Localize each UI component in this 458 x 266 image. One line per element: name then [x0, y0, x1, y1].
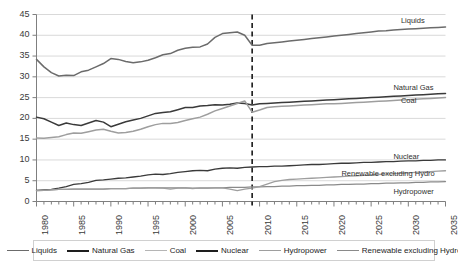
series-label-hydropower: Hydropower [393, 188, 433, 196]
legend-label: Nuclear [221, 246, 249, 255]
legend-label: Natural Gas [92, 246, 135, 255]
y-axis-label-10: 10 [10, 155, 30, 164]
y-axis-label-45: 45 [10, 10, 30, 19]
legend-label: Liquids [32, 246, 57, 255]
series-label-coal: Coal [401, 97, 416, 105]
x-axis-label-2035: 2035 [450, 214, 458, 234]
x-axis-label-2005: 2005 [226, 214, 235, 234]
x-axis-label-1990: 1990 [115, 214, 124, 234]
legend-label: Renewable excluding Hydro [362, 246, 458, 255]
chart-legend: LiquidsNatural GasCoalNuclearHydropowerR… [33, 240, 435, 261]
legend-item-nuclear[interactable]: Nuclear [196, 246, 249, 255]
y-axis-label-20: 20 [10, 113, 30, 122]
y-axis-label-35: 35 [10, 51, 30, 60]
legend-swatch-icon [67, 250, 89, 252]
chart-container: 051015202530354045 198019851990199520002… [0, 0, 458, 266]
series-label-renewable-excluding-hydro: Renewable excluding Hydro [341, 170, 434, 178]
series-line-natural-gas [37, 93, 446, 126]
legend-item-coal[interactable]: Coal [145, 246, 186, 255]
legend-swatch-icon [196, 250, 218, 252]
legend-item-liquids[interactable]: Liquids [7, 246, 57, 255]
legend-swatch-icon [259, 250, 281, 251]
x-axis-label-2025: 2025 [375, 214, 384, 234]
legend-swatch-icon [7, 250, 29, 251]
series-label-liquids: Liquids [401, 17, 425, 25]
legend-item-hydropower[interactable]: Hydropower [259, 246, 327, 255]
y-axis-label-0: 0 [10, 197, 30, 206]
legend-label: Coal [170, 246, 186, 255]
series-label-natural-gas: Natural Gas [393, 84, 433, 92]
x-axis-label-2030: 2030 [412, 214, 421, 234]
legend-swatch-icon [337, 250, 359, 251]
y-axis-label-40: 40 [10, 30, 30, 39]
x-axis-label-1995: 1995 [152, 214, 161, 234]
x-axis-label-2020: 2020 [338, 214, 347, 234]
legend-label: Hydropower [284, 246, 327, 255]
legend-item-natural-gas[interactable]: Natural Gas [67, 246, 135, 255]
series-line-liquids [37, 27, 446, 76]
series-label-nuclear: Nuclear [393, 153, 419, 161]
legend-swatch-icon [145, 250, 167, 251]
y-axis-label-30: 30 [10, 72, 30, 81]
y-axis-label-15: 15 [10, 134, 30, 143]
legend-item-renewable-excluding-hydro[interactable]: Renewable excluding Hydro [337, 246, 458, 255]
x-axis-label-1985: 1985 [78, 214, 87, 234]
x-axis-label-2000: 2000 [189, 214, 198, 234]
x-axis-label-2010: 2010 [264, 214, 273, 234]
y-axis-label-5: 5 [10, 176, 30, 185]
data-series-lines [37, 27, 446, 191]
x-axis-label-2015: 2015 [301, 214, 310, 234]
x-axis-label-1980: 1980 [41, 214, 50, 234]
y-axis-label-25: 25 [10, 93, 30, 102]
